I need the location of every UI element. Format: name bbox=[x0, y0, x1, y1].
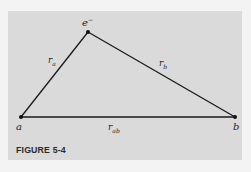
point-a-dot bbox=[19, 115, 23, 119]
point-b-dot bbox=[233, 115, 237, 119]
ra-subscript: a bbox=[52, 60, 56, 67]
point-b-letter: b bbox=[233, 121, 239, 132]
edge-ra bbox=[21, 32, 88, 117]
rab-subscript: ab bbox=[112, 127, 119, 134]
figure-caption: FIGURE 5-4 bbox=[16, 144, 66, 155]
label-rb: rb bbox=[159, 59, 167, 70]
point-a-letter: a bbox=[16, 121, 22, 132]
label-ra: ra bbox=[48, 56, 56, 67]
edge-rb bbox=[88, 32, 235, 117]
rb-subscript: b bbox=[163, 63, 167, 70]
label-electron: e− bbox=[82, 17, 93, 28]
label-point-a: a bbox=[16, 122, 22, 132]
label-point-b: b bbox=[233, 122, 239, 132]
electron-charge: − bbox=[88, 16, 93, 23]
label-rab: rab bbox=[108, 123, 120, 134]
point-e-dot bbox=[86, 30, 90, 34]
